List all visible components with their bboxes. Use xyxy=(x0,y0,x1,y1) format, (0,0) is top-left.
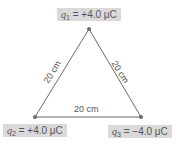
charge-subscript: 2 xyxy=(12,130,16,137)
charge-point-q2 xyxy=(33,115,37,119)
charge-point-q1 xyxy=(87,27,91,31)
charge-label-q1: q1 = +4.0 μC xyxy=(57,8,121,21)
charge-point-q3 xyxy=(139,115,143,119)
charge-value: = −4.0 μC xyxy=(124,126,168,137)
side-label-bottom: 20 cm xyxy=(74,104,99,114)
charge-label-q2: q2 = +4.0 μC xyxy=(3,124,67,137)
charge-value: = +4.0 μC xyxy=(19,125,63,136)
charge-subscript: 3 xyxy=(117,131,121,138)
charge-label-q3: q3 = −4.0 μC xyxy=(108,125,172,138)
charge-value: = +4.0 μC xyxy=(73,9,117,20)
charge-subscript: 1 xyxy=(66,14,70,21)
